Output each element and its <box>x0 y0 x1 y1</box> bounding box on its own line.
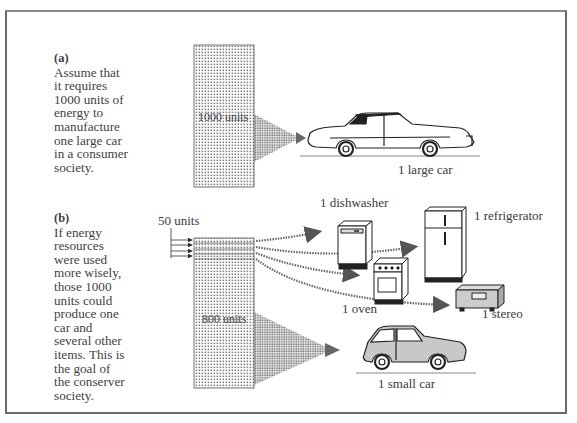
dishwasher-label: 1 dishwasher <box>320 195 388 211</box>
caption-line: If energy <box>54 226 125 240</box>
stereo-label: 1 stereo <box>482 306 523 322</box>
caption-line: were used <box>54 253 125 267</box>
caption-line: Assume that <box>54 66 128 80</box>
caption-line: the goal of <box>54 362 125 376</box>
dishwasher-icon <box>338 221 372 269</box>
caption-line: society. <box>54 389 125 403</box>
caption-line: energy to <box>54 106 128 120</box>
oven-label: 1 oven <box>342 301 377 317</box>
caption-line: produce one <box>54 307 125 321</box>
panel-b-tag: (b) <box>54 212 125 226</box>
panel-a-tag: (a) <box>54 52 128 66</box>
large-car-icon <box>300 113 480 156</box>
caption-line: 1000 units of <box>54 93 128 107</box>
small-car-icon <box>356 326 476 373</box>
caption-line: several other <box>54 334 125 348</box>
refrigerator-label: 1 refrigerator <box>474 208 543 224</box>
caption-line: the conserver <box>54 375 125 389</box>
energy-flow-to-small-car <box>254 312 340 385</box>
caption-line: in a consumer <box>54 147 128 161</box>
input-50-units-label: 50 units <box>158 213 200 229</box>
caption-line: resources <box>54 239 125 253</box>
oven-icon <box>374 258 408 304</box>
caption-line: units could <box>54 294 125 308</box>
input-arrows-50-units <box>171 228 192 258</box>
small-car-label: 1 small car <box>378 376 435 392</box>
caption-line: manufacture <box>54 120 128 134</box>
caption-line: it requires <box>54 79 128 93</box>
bar-a-label: 1000 units <box>198 110 248 125</box>
caption-panel-b: (b) If energy resources were used more w… <box>54 212 125 402</box>
caption-line: one large car <box>54 134 128 148</box>
caption-line: car and <box>54 321 125 335</box>
bar-b-label: 800 units <box>202 312 246 327</box>
caption-line: society. <box>54 161 128 175</box>
caption-panel-a: (a) Assume that it requires 1000 units o… <box>54 52 128 174</box>
caption-line: more wisely, <box>54 266 125 280</box>
caption-line: items. This is <box>54 348 125 362</box>
caption-line: those 1000 <box>54 280 125 294</box>
large-car-label: 1 large car <box>398 162 453 178</box>
refrigerator-icon <box>425 207 466 282</box>
energy-flow-to-large-car <box>254 114 306 162</box>
